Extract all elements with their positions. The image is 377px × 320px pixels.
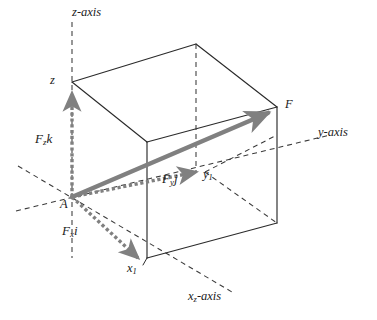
- hidden-edge-y1-to-right: [205, 135, 277, 172]
- point-label-z1-base: z: [50, 73, 55, 87]
- axis-label-x-tail: -axis: [197, 289, 221, 303]
- point-label-F: F: [285, 98, 293, 111]
- point-label-y1: y1: [203, 168, 213, 182]
- point-label-F-base: F: [285, 97, 293, 111]
- point-label-x1-sub: 1: [133, 266, 137, 276]
- point-label-x1: x1: [127, 262, 137, 276]
- point-label-z1: z: [50, 74, 55, 88]
- vector-label-Fxi: Fxi: [62, 224, 78, 239]
- axis-label-y-tail: -axis: [324, 125, 348, 139]
- hidden-bottom-edge-right: [205, 172, 277, 223]
- axis-label-z: z-axis: [72, 6, 101, 20]
- vector-label-Fzk-base: F: [35, 131, 43, 146]
- vector-label-Fyj-base: F: [162, 171, 170, 186]
- vector-label-Fxi-unit: i: [74, 223, 78, 238]
- point-label-A-base: A: [60, 197, 68, 211]
- vector-label-Fxi-base: F: [62, 223, 70, 238]
- axis-label-x: xz-axis: [188, 290, 221, 304]
- point-label-y1-sub: 1: [209, 172, 213, 182]
- vector-component-Fx: [72, 197, 138, 258]
- axis-label-z-tail: -axis: [77, 5, 101, 19]
- vector-label-Fyj: Fyj: [162, 172, 178, 187]
- vector-label-Fzk: Fzk: [35, 132, 52, 147]
- force-vector-diagram: z-axis y-axis xz-axis z A F y1 x1 Fzk Fx…: [0, 0, 377, 320]
- point-label-A: A: [60, 198, 68, 211]
- axis-label-y: y-axis: [318, 126, 348, 140]
- vector-label-Fyj-unit: j: [174, 171, 178, 186]
- diagram-canvas: [0, 0, 377, 320]
- vector-label-Fzk-unit: k: [46, 131, 52, 146]
